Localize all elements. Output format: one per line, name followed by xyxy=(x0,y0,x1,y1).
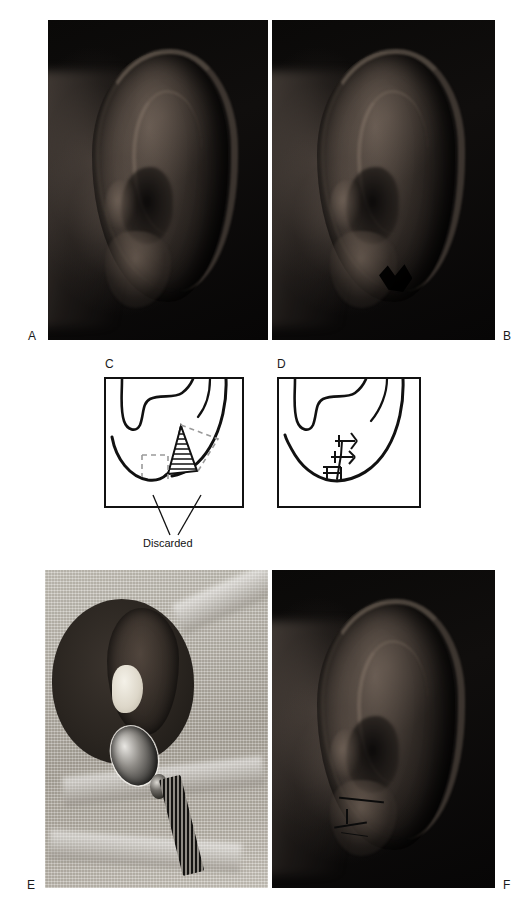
panel-b-cleft-lobule-photo xyxy=(272,20,495,340)
panel-c-excision-design xyxy=(104,377,244,508)
leader-line-to-square xyxy=(153,495,170,535)
antihelix-outline xyxy=(295,379,367,430)
discarded-label: Discarded xyxy=(143,537,193,549)
panel-letter-b: B xyxy=(503,330,511,342)
suture-stitch-2 xyxy=(346,809,348,825)
panel-d-closure-sutures xyxy=(277,377,421,508)
scapha-line xyxy=(371,379,387,421)
tragus xyxy=(105,180,136,231)
panel-d-linework xyxy=(279,379,419,506)
scapha-line xyxy=(198,379,210,417)
panel-letter-f: F xyxy=(503,879,511,891)
lobule-margin-anterior xyxy=(112,437,166,480)
discarded-leader-lines xyxy=(140,495,250,537)
suture-mark-2 xyxy=(331,451,355,464)
suture-mark-1 xyxy=(335,433,357,449)
panel-letter-d: D xyxy=(277,358,286,370)
panel-a-preoperative-ear-photo xyxy=(48,20,268,340)
panel-letter-e: E xyxy=(27,879,35,891)
leader-line-to-wedge xyxy=(178,495,201,535)
panel-letter-a: A xyxy=(28,330,36,342)
panel-letter-c: C xyxy=(105,358,114,370)
figure-root: A B C xyxy=(0,0,525,913)
tragus xyxy=(330,729,361,780)
panel-e-intraoperative-photo xyxy=(45,570,268,888)
tragus xyxy=(330,180,361,231)
antihelix-outline xyxy=(122,379,194,430)
panel-f-postoperative-photo xyxy=(272,570,495,888)
panel-c-linework xyxy=(106,379,242,506)
